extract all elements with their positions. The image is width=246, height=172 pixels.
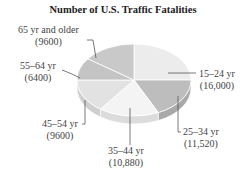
label-65-and-older: 65 yr and older (9600) (18, 24, 79, 47)
label-value: (9600) (42, 130, 78, 142)
label-25-34: 25–34 yr (11,520) (183, 126, 219, 149)
label-value: (16,000) (199, 80, 235, 92)
label-45-54: 45–54 yr (9600) (42, 118, 78, 141)
leader-line (62, 70, 80, 78)
pie-slice (134, 44, 191, 80)
label-name: 25–34 yr (183, 126, 219, 138)
label-value: (11,520) (183, 138, 219, 150)
label-name: 55–64 yr (20, 60, 56, 72)
label-15-24: 15–24 yr (16,000) (199, 68, 235, 91)
label-name: 15–24 yr (199, 68, 235, 80)
label-55-64: 55–64 yr (6400) (20, 60, 56, 83)
label-name: 45–54 yr (42, 118, 78, 130)
label-35-44: 35–44 yr (10,880) (108, 145, 144, 168)
label-value: (9600) (18, 36, 79, 48)
label-name: 65 yr and older (18, 24, 79, 36)
label-name: 35–44 yr (108, 145, 144, 157)
label-value: (10,880) (108, 157, 144, 169)
label-value: (6400) (20, 72, 56, 84)
